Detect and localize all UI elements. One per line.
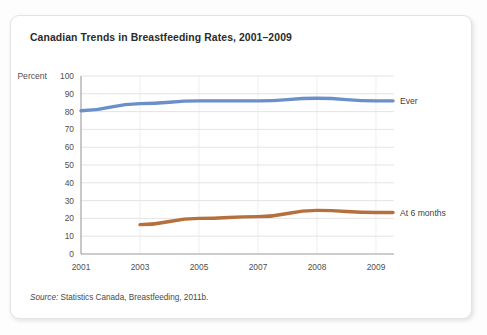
page-background: Canadian Trends in Breastfeeding Rates, …	[0, 0, 487, 335]
chart-title: Canadian Trends in Breastfeeding Rates, …	[30, 32, 292, 43]
x-tick-label: 2009	[367, 262, 386, 272]
x-tick-label: 2005	[190, 262, 209, 272]
x-tick-label: 2003	[131, 262, 150, 272]
y-tick-label: 80	[65, 107, 75, 117]
y-tick-label: 10	[65, 231, 75, 241]
chart-plot-container: 0102030405060708090100200120032005200720…	[11, 50, 471, 280]
y-tick-label: 90	[65, 89, 75, 99]
line-chart: 0102030405060708090100200120032005200720…	[11, 50, 471, 280]
y-tick-label: 30	[65, 196, 75, 206]
y-tick-label: 100	[60, 71, 74, 81]
source-note: Source: Statistics Canada, Breastfeeding…	[30, 293, 208, 302]
y-tick-label: 0	[69, 249, 74, 259]
x-tick-label: 2008	[308, 262, 327, 272]
y-axis-label: Percent	[17, 71, 47, 81]
x-tick-label: 2001	[72, 262, 91, 272]
y-tick-label: 20	[65, 213, 75, 223]
source-label: Source:	[30, 293, 58, 302]
figure-card: Canadian Trends in Breastfeeding Rates, …	[10, 15, 472, 319]
series-label: At 6 months	[400, 208, 446, 218]
source-text: Statistics Canada, Breastfeeding, 2011b.	[58, 293, 208, 302]
series-line	[140, 210, 393, 224]
series-label: Ever	[400, 96, 418, 106]
y-tick-label: 50	[65, 160, 75, 170]
y-tick-label: 40	[65, 178, 75, 188]
y-tick-label: 60	[65, 142, 75, 152]
series-line	[81, 98, 393, 110]
x-tick-label: 2007	[249, 262, 268, 272]
y-tick-label: 70	[65, 124, 75, 134]
